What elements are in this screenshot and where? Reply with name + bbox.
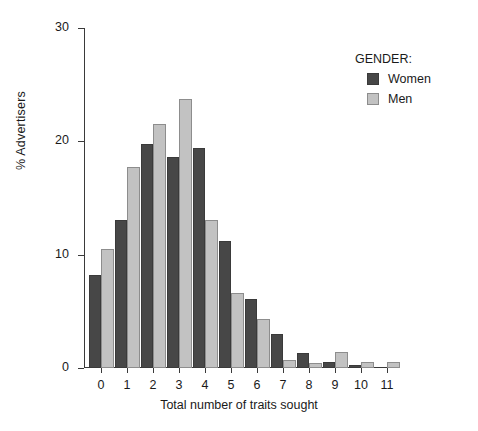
bar-women-4 xyxy=(193,148,206,368)
bar-men-11 xyxy=(387,362,400,368)
x-tick-label: 8 xyxy=(306,378,313,392)
plot-area: 0102030 01234567891011 xyxy=(84,28,396,368)
bar-men-7 xyxy=(283,360,296,368)
x-tick-label: 2 xyxy=(150,378,157,392)
y-tick-label: 30 xyxy=(55,20,69,34)
bar-women-2 xyxy=(141,144,154,368)
y-axis-title: % Advertisers xyxy=(14,30,28,170)
bar-women-1 xyxy=(115,220,128,368)
x-tick-label: 4 xyxy=(202,378,209,392)
x-tick xyxy=(205,368,206,373)
x-tick xyxy=(309,368,310,373)
legend-swatch-women-icon xyxy=(367,73,379,85)
bar-men-1 xyxy=(127,167,140,368)
legend-item-men: Men xyxy=(367,92,431,106)
bar-women-0 xyxy=(89,275,102,368)
x-tick xyxy=(153,368,154,373)
bar-women-6 xyxy=(245,299,258,368)
bar-men-10 xyxy=(361,362,374,368)
x-tick xyxy=(231,368,232,373)
y-tick: 30 xyxy=(78,28,84,29)
bar-women-7 xyxy=(271,334,284,368)
x-tick xyxy=(361,368,362,373)
bar-men-2 xyxy=(153,124,166,368)
x-tick-label: 7 xyxy=(280,378,287,392)
y-tick: 0 xyxy=(78,368,84,369)
x-tick-label: 10 xyxy=(354,378,368,392)
x-tick xyxy=(127,368,128,373)
legend-item-women: Women xyxy=(367,72,431,86)
x-tick xyxy=(335,368,336,373)
y-tick-label: 20 xyxy=(55,133,69,147)
x-tick-label: 1 xyxy=(124,378,131,392)
bar-women-10 xyxy=(349,365,362,368)
x-tick-label: 11 xyxy=(381,378,394,392)
bar-men-5 xyxy=(231,293,244,368)
x-tick-label: 0 xyxy=(98,378,105,392)
bar-men-8 xyxy=(309,363,322,368)
y-tick-label: 10 xyxy=(55,247,69,261)
bar-men-4 xyxy=(205,220,218,368)
bar-women-5 xyxy=(219,241,232,368)
x-axis-title: Total number of traits sought xyxy=(0,398,478,412)
x-tick xyxy=(283,368,284,373)
y-tick-label: 0 xyxy=(62,360,69,374)
x-tick-label: 6 xyxy=(254,378,261,392)
legend-label-women: Women xyxy=(388,72,431,86)
x-tick xyxy=(257,368,258,373)
x-tick xyxy=(387,368,388,373)
legend-title: GENDER: xyxy=(355,52,431,66)
x-tick-label: 3 xyxy=(176,378,183,392)
bar-women-8 xyxy=(297,353,310,368)
x-tick-label: 9 xyxy=(332,378,339,392)
bar-men-0 xyxy=(101,249,114,368)
legend-swatch-men-icon xyxy=(367,93,379,105)
bar-men-3 xyxy=(179,99,192,368)
x-tick-label: 5 xyxy=(228,378,235,392)
y-axis-line xyxy=(84,28,85,368)
bar-women-9 xyxy=(323,362,336,368)
x-tick xyxy=(101,368,102,373)
bar-women-3 xyxy=(167,157,180,368)
y-tick: 10 xyxy=(78,255,84,256)
bar-men-9 xyxy=(335,352,348,368)
y-tick: 20 xyxy=(78,141,84,142)
bar-chart-figure: % Advertisers 0102030 01234567891011 Tot… xyxy=(0,0,478,431)
x-tick xyxy=(179,368,180,373)
bar-men-6 xyxy=(257,319,270,368)
legend-label-men: Men xyxy=(388,92,412,106)
legend: GENDER: Women Men xyxy=(355,52,431,112)
